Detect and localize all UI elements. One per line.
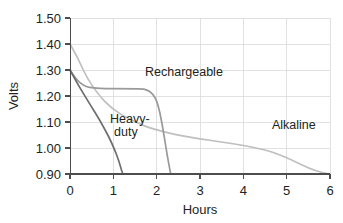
y-tick-label-2: 1.10 bbox=[36, 115, 61, 130]
x-axis-title: Hours bbox=[183, 202, 218, 217]
series-annotations: Rechargeable Heavy- duty Alkaline bbox=[110, 65, 316, 139]
x-tick-label-5: 5 bbox=[283, 183, 290, 198]
series-label-alkaline: Alkaline bbox=[272, 118, 316, 132]
x-tick-label-4: 4 bbox=[240, 183, 247, 198]
battery-discharge-chart: 1.50 1.40 1.30 1.20 1.10 1.00 0.90 0 1 2… bbox=[0, 0, 343, 223]
y-axis-tick-labels: 1.50 1.40 1.30 1.20 1.10 1.00 0.90 bbox=[36, 11, 61, 182]
series-label-heavy-duty-line2: duty bbox=[114, 125, 138, 139]
x-tick-label-3: 3 bbox=[196, 183, 203, 198]
y-tick-label-5: 1.40 bbox=[36, 37, 61, 52]
y-axis-title: Volts bbox=[6, 81, 21, 110]
x-tick-label-6: 6 bbox=[326, 183, 333, 198]
y-axis-ticks bbox=[65, 18, 70, 174]
y-tick-label-3: 1.20 bbox=[36, 89, 61, 104]
x-tick-label-1: 1 bbox=[110, 183, 117, 198]
x-axis-tick-labels: 0 1 2 3 4 5 6 bbox=[66, 183, 333, 198]
series-label-heavy-duty-line1: Heavy- bbox=[110, 112, 150, 126]
x-tick-label-2: 2 bbox=[153, 183, 160, 198]
chart-canvas: 1.50 1.40 1.30 1.20 1.10 1.00 0.90 0 1 2… bbox=[0, 0, 343, 223]
y-tick-label-0: 0.90 bbox=[36, 167, 61, 182]
y-tick-label-1: 1.00 bbox=[36, 141, 61, 156]
series-label-rechargeable: Rechargeable bbox=[145, 65, 223, 79]
y-tick-label-4: 1.30 bbox=[36, 63, 61, 78]
y-tick-label-6: 1.50 bbox=[36, 11, 61, 26]
x-tick-label-0: 0 bbox=[66, 183, 73, 198]
